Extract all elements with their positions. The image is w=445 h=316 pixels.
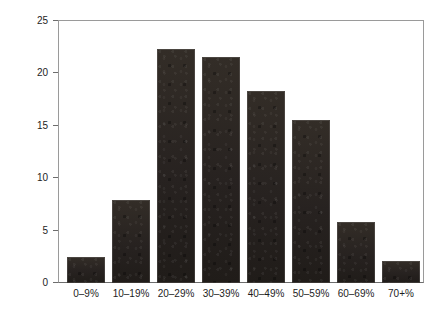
y-axis-tick-mark-0 — [53, 282, 58, 283]
y-axis-tick-label-20: 20 — [0, 66, 48, 80]
bar-4[interactable] — [247, 91, 285, 283]
bar-group-1 — [112, 21, 150, 283]
y-axis-tick-label-15: 15 — [0, 119, 48, 133]
y-axis-tick-label-5: 5 — [0, 224, 48, 238]
bar-group-0 — [67, 21, 105, 283]
x-axis-labels: 0–9% 10–19% 20–29% 30–39% 40–49% 50–59% … — [59, 287, 423, 303]
bar-chart-figure: Percent of respondents 0 5 10 15 20 25 — [0, 0, 445, 316]
y-axis-tick-mark-20 — [53, 72, 58, 73]
bar-0[interactable] — [67, 257, 105, 283]
y-axis-tick-mark-10 — [53, 177, 58, 178]
bar-group-5 — [292, 21, 330, 283]
bar-group-6 — [337, 21, 375, 283]
y-axis-tick-label-10: 10 — [0, 171, 48, 185]
bar-3[interactable] — [202, 57, 240, 283]
bar-6[interactable] — [337, 222, 375, 283]
bars-layer — [59, 21, 423, 283]
y-axis-tick-mark-25 — [53, 20, 58, 21]
bar-5[interactable] — [292, 120, 330, 283]
bar-group-7 — [382, 21, 420, 283]
y-axis-tick-mark-15 — [53, 125, 58, 126]
bar-group-2 — [157, 21, 195, 283]
bar-1[interactable] — [112, 200, 150, 283]
bar-group-3 — [202, 21, 240, 283]
y-axis-tick-mark-5 — [53, 230, 58, 231]
bar-7[interactable] — [382, 261, 420, 283]
bar-2[interactable] — [157, 49, 195, 283]
y-axis-tick-label-0: 0 — [0, 276, 48, 290]
bar-group-4 — [247, 21, 285, 283]
y-axis-tick-label-25: 25 — [0, 14, 48, 28]
x-axis-tick-label-7: 70+% — [369, 287, 433, 301]
